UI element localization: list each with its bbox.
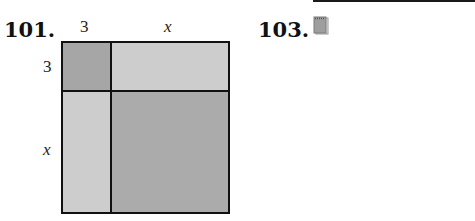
left-label-x: x xyxy=(43,140,51,160)
notepad-icon xyxy=(313,16,329,35)
left-label-3: 3 xyxy=(43,57,52,77)
horizontal-divider xyxy=(63,90,228,92)
cell-3-by-3 xyxy=(63,43,110,90)
top-label-x: x xyxy=(164,17,172,37)
cell-x-by-3-left xyxy=(63,92,110,212)
top-label-3: 3 xyxy=(80,17,89,37)
problem-number-101: 101. xyxy=(4,17,55,42)
problem-number-103: 103. xyxy=(258,17,309,42)
area-model-square xyxy=(61,41,230,214)
vertical-divider xyxy=(110,43,112,212)
cell-x-by-x xyxy=(112,92,228,212)
top-rule-line xyxy=(313,0,475,2)
cell-3-by-x-top xyxy=(112,43,228,90)
